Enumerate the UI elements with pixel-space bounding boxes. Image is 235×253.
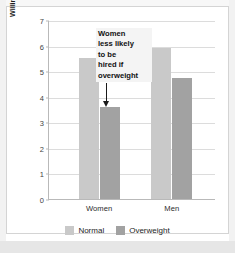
bar-men-overweight xyxy=(172,78,192,199)
y-axis-title: Willingness to hire scale (from 1: defin… xyxy=(8,0,34,40)
y-tick-label: 5 xyxy=(40,68,44,77)
y-tick-label: 6 xyxy=(40,42,44,51)
y-tick-label: 4 xyxy=(40,93,44,102)
chart-legend: NormalOverweight xyxy=(0,226,235,235)
annotation-arrow-shaft xyxy=(106,83,107,103)
x-tick-label: Men xyxy=(164,204,179,213)
legend-swatch-icon xyxy=(65,226,74,235)
y-tick-mark xyxy=(46,174,49,175)
right-margin-band xyxy=(229,0,235,253)
legend-label: Normal xyxy=(78,226,104,235)
bottom-margin-band xyxy=(0,241,235,253)
y-tick-mark xyxy=(46,21,49,22)
y-tick-mark xyxy=(46,200,49,201)
bar-men-normal xyxy=(151,48,171,199)
y-tick-label: 7 xyxy=(40,17,44,26)
annotation-arrow-head xyxy=(103,101,109,107)
y-tick-label: 0 xyxy=(40,196,44,205)
legend-swatch-icon xyxy=(116,226,125,235)
y-tick-mark xyxy=(46,123,49,124)
y-tick-mark xyxy=(46,72,49,73)
y-tick-mark xyxy=(46,148,49,149)
y-tick-mark xyxy=(46,46,49,47)
y-tick-label: 1 xyxy=(40,170,44,179)
legend-item: Normal xyxy=(65,226,104,235)
legend-item: Overweight xyxy=(116,226,169,235)
annotation-callout: Women less likely to be hired if overwei… xyxy=(96,28,152,82)
x-tick-label: Women xyxy=(86,204,112,213)
legend-label: Overweight xyxy=(129,226,169,235)
y-tick-label: 2 xyxy=(40,144,44,153)
chart-figure: Willingness to hire scale (from 1: defin… xyxy=(0,0,235,253)
gridline xyxy=(49,21,215,22)
bar-women-overweight xyxy=(100,107,120,199)
y-tick-label: 3 xyxy=(40,119,44,128)
y-tick-mark xyxy=(46,97,49,98)
